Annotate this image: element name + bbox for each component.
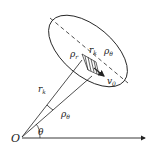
label-rho-r: ρr — [69, 49, 79, 60]
element-hatch — [82, 54, 99, 75]
beam-line-right — [22, 76, 92, 137]
label-rk-top: rk — [89, 45, 97, 56]
label-theta: θ — [38, 127, 44, 137]
polar-beam-diagram: O θ rk ρr rk ρθ v0 ρθ — [0, 0, 151, 156]
label-rho-theta-bottom: ρθ — [60, 109, 70, 120]
ellipse-region — [36, 2, 140, 101]
arc-rho-theta — [47, 105, 53, 110]
label-rk: rk — [38, 84, 46, 95]
label-v0: v0 — [107, 76, 116, 87]
beam-line-left — [22, 60, 82, 137]
label-rho-theta-top: ρθ — [103, 46, 113, 57]
label-origin: O — [11, 132, 20, 145]
